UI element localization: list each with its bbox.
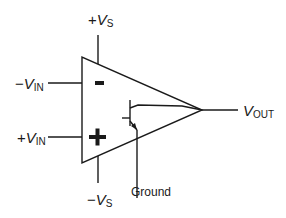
prefix: + xyxy=(17,129,26,146)
prefix: − xyxy=(15,75,24,92)
vs-neg-label: −VS xyxy=(87,192,112,209)
var: V xyxy=(26,129,36,146)
vout-label: VOUT xyxy=(243,103,274,120)
var: V xyxy=(97,11,107,28)
sub: IN xyxy=(36,136,46,147)
var: V xyxy=(24,75,34,92)
vs-pos-label: +VS xyxy=(88,12,113,29)
sub: IN xyxy=(34,82,44,93)
var: V xyxy=(243,102,253,119)
ground-label: Ground xyxy=(131,186,171,198)
op-amp-triangle xyxy=(82,57,202,163)
sub: S xyxy=(106,198,113,209)
plus-sign-icon-v xyxy=(96,129,100,146)
vin-pos-label: +VIN xyxy=(17,130,46,147)
minus-sign-icon xyxy=(95,81,104,85)
vin-neg-label: −VIN xyxy=(15,76,44,93)
var: V xyxy=(96,191,106,208)
prefix: + xyxy=(88,11,97,28)
sub: S xyxy=(107,18,114,29)
prefix: − xyxy=(87,191,96,208)
sub: OUT xyxy=(253,109,274,120)
